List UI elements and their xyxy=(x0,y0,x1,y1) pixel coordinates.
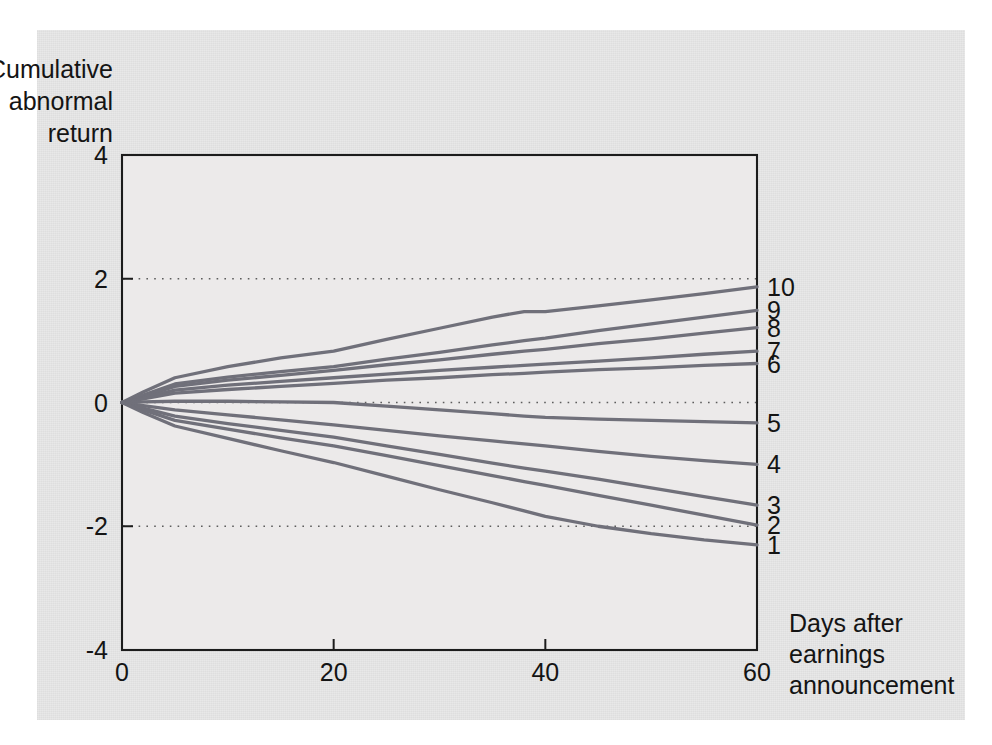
series-label-5: 5 xyxy=(767,409,781,437)
y-tick-label-0: 0 xyxy=(94,389,108,417)
y-axis-tick-labels: 420-2-4 xyxy=(86,141,108,664)
x-axis-label-line-2: earnings xyxy=(789,640,885,668)
series-label-1: 1 xyxy=(767,531,781,559)
y-axis-label-line-3: return xyxy=(48,119,113,147)
x-tick-label-40: 40 xyxy=(531,658,559,686)
x-axis-label: Days after earnings announcement xyxy=(789,609,954,699)
y-tick-label--2: -2 xyxy=(86,512,108,540)
x-tick-label-60: 60 xyxy=(743,658,771,686)
series-label-6: 6 xyxy=(767,350,781,378)
x-tick-label-0: 0 xyxy=(115,658,129,686)
x-axis-label-line-1: Days after xyxy=(789,609,903,637)
y-axis-label: Cumulative abnormal return xyxy=(0,55,113,147)
y-tick-label-2: 2 xyxy=(94,265,108,293)
x-axis-tick-labels: 0204060 xyxy=(115,658,771,686)
x-tick-label-20: 20 xyxy=(320,658,348,686)
y-axis-label-line-1: Cumulative xyxy=(0,55,113,83)
y-axis-label-line-2: abnormal xyxy=(9,87,113,115)
y-tick-label--4: -4 xyxy=(86,636,108,664)
series-label-4: 4 xyxy=(767,450,781,478)
chart-canvas: 420-2-4 0204060 10987654321 Cumulative a… xyxy=(0,0,992,745)
series-end-labels: 10987654321 xyxy=(767,273,795,559)
x-axis-label-line-3: announcement xyxy=(789,671,954,699)
